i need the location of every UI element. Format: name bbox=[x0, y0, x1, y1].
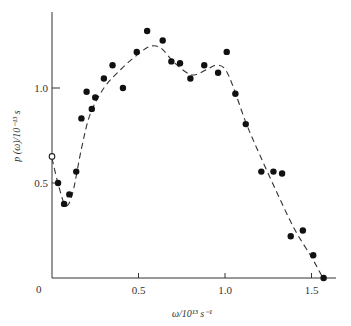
filled-data-point bbox=[101, 75, 107, 81]
filled-data-point bbox=[310, 252, 316, 258]
filled-data-point bbox=[300, 227, 306, 233]
x-tick-label: 1.5 bbox=[305, 284, 319, 296]
filled-data-point bbox=[232, 91, 238, 97]
filled-data-point bbox=[270, 168, 276, 174]
filled-data-point bbox=[243, 121, 249, 127]
filled-data-point bbox=[78, 115, 84, 121]
filled-data-point bbox=[168, 58, 174, 64]
filled-data-point bbox=[66, 191, 72, 197]
data-points bbox=[49, 28, 327, 281]
filled-data-point bbox=[288, 233, 294, 239]
chart-plot: 0.51.01.50.51.0 0 ω/10¹³ s⁻¹ p (ω)/10⁻¹³… bbox=[0, 0, 351, 326]
filled-data-point bbox=[134, 49, 140, 55]
open-data-point bbox=[49, 154, 55, 160]
filled-data-point bbox=[279, 170, 285, 176]
filled-data-point bbox=[320, 275, 326, 281]
filled-data-point bbox=[61, 201, 67, 207]
filled-data-point bbox=[177, 60, 183, 66]
x-tick-label: 0.5 bbox=[132, 284, 146, 296]
x-axis-title: ω/10¹³ s⁻¹ bbox=[172, 308, 212, 319]
x-tick-label: 1.0 bbox=[218, 284, 232, 296]
ticks: 0.51.01.50.51.0 bbox=[34, 82, 319, 296]
y-tick-label: 1.0 bbox=[34, 82, 48, 94]
dashed-fit-curve bbox=[52, 46, 322, 276]
origin-label: 0 bbox=[36, 283, 42, 295]
filled-data-point bbox=[160, 37, 166, 43]
filled-data-point bbox=[215, 70, 221, 76]
filled-data-point bbox=[144, 28, 150, 34]
filled-data-point bbox=[89, 106, 95, 112]
y-tick-label: 0.5 bbox=[34, 177, 48, 189]
axes bbox=[52, 12, 336, 278]
filled-data-point bbox=[109, 62, 115, 68]
filled-data-point bbox=[55, 180, 61, 186]
y-axis-title: p (ω)/10⁻¹³ s bbox=[11, 110, 23, 162]
filled-data-point bbox=[201, 62, 207, 68]
filled-data-point bbox=[83, 89, 89, 95]
filled-data-point bbox=[187, 75, 193, 81]
filled-data-point bbox=[73, 168, 79, 174]
filled-data-point bbox=[120, 85, 126, 91]
filled-data-point bbox=[224, 49, 230, 55]
filled-data-point bbox=[92, 94, 98, 100]
filled-data-point bbox=[258, 168, 264, 174]
